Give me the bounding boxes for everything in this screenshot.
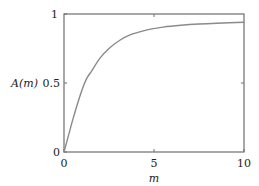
y-tick-label-0: 0	[53, 146, 60, 159]
plot-frame	[64, 14, 244, 152]
y-tick-label-05: 0.5	[43, 77, 61, 90]
x-tick-label-5: 5	[151, 157, 158, 170]
chart-canvas: 1 0.5 0 0 5 10 A(m) m	[0, 0, 259, 186]
x-tick-label-0: 0	[61, 157, 68, 170]
data-curve	[64, 22, 244, 152]
x-tick-label-10: 10	[237, 157, 251, 170]
x-ticks	[64, 14, 244, 152]
x-axis-label: m	[149, 172, 159, 185]
y-tick-label-1: 1	[51, 8, 58, 21]
y-axis-label: A(m)	[10, 77, 38, 90]
